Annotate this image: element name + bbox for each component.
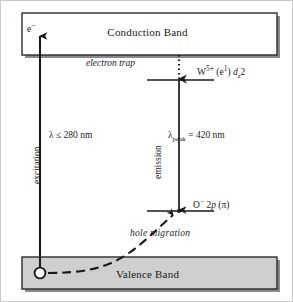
trap-element-symbol: W — [197, 67, 206, 77]
oxygen-2p-level-label: O− 2p (π) — [193, 198, 229, 211]
electron-charge-glyph: − — [31, 21, 36, 30]
trap-orbital-exponent: 2 — [241, 67, 246, 77]
emission-lambda-subscript: peak — [173, 135, 186, 143]
diagram-canvas — [1, 1, 293, 302]
recombination-dot — [177, 209, 181, 213]
trap-config-open: (e — [214, 67, 224, 77]
emission-wavelength-label: λpeak = 420 nm — [168, 131, 225, 143]
electron-trap-annotation: electron trap — [86, 59, 135, 69]
hole-migration-label: hole migration — [130, 229, 190, 239]
excitation-process-label: excitation — [32, 147, 42, 184]
electron-trap-level-label: W5+ (e1) dz2 — [197, 65, 245, 80]
electron-symbol-label: e− — [27, 22, 36, 35]
oxygen-orbital-suffix: (π) — [216, 200, 230, 210]
conduction-band-label: Conduction Band — [1, 27, 293, 38]
trap-oxidation-state: 5+ — [206, 64, 214, 73]
energy-band-diagram: Conduction Band Valence Band e− electron… — [0, 0, 293, 302]
valence-band-label: Valence Band — [1, 269, 293, 280]
oxygen-element-symbol: O — [193, 200, 200, 210]
emission-process-label: emission — [153, 145, 163, 179]
excitation-wavelength-label: λ ≤ 280 nm — [49, 131, 92, 141]
emission-lambda-value: = 420 nm — [186, 130, 225, 140]
